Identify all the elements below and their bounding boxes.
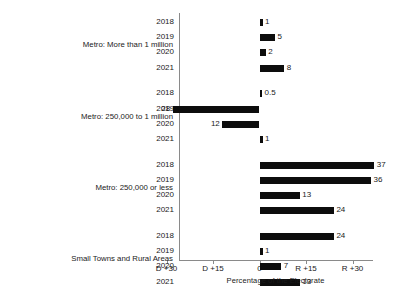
chart-row: 20181 — [0, 16, 401, 28]
chart-bar — [260, 19, 263, 26]
group-label: Metro: 250,000 to 1 million — [0, 112, 173, 121]
chart-bar — [260, 34, 276, 41]
chart-bar — [173, 106, 260, 113]
bar-value-label: 37 — [377, 159, 386, 171]
bar-value-label: 1 — [265, 16, 269, 28]
chart-bar — [260, 207, 334, 214]
chart-row: 20180.5 — [0, 87, 401, 99]
chart-row: 201837 — [0, 159, 401, 171]
chart-bar — [260, 136, 263, 143]
bar-value-label: 12 — [211, 118, 220, 130]
group-label: Small Towns and Rural Areas — [0, 254, 173, 263]
bar-value-label: 1 — [265, 133, 269, 145]
chart-row: 20218 — [0, 62, 401, 74]
x-axis-title: Percentage of the Electorate — [0, 276, 401, 285]
chart-row: 20211 — [0, 133, 401, 145]
year-label: 2018 — [140, 16, 174, 28]
year-label: 2021 — [140, 204, 174, 216]
year-label: 2018 — [140, 87, 174, 99]
chart-bar — [222, 121, 259, 128]
chart-bar — [260, 162, 375, 169]
chart-bar — [260, 192, 300, 199]
bar-value-label: 1 — [265, 245, 269, 257]
bar-value-label: 24 — [336, 204, 345, 216]
bar-value-label: 7 — [284, 260, 288, 272]
bar-value-label: 36 — [374, 174, 383, 186]
chart-bar — [260, 49, 266, 56]
chart-bar — [260, 65, 285, 72]
x-axis-title-text: Percentage of the Electorate — [227, 276, 325, 285]
chart-bar — [260, 233, 334, 240]
year-label: 2018 — [140, 159, 174, 171]
bar-value-label: 2 — [268, 46, 272, 58]
group-label: Metro: More than 1 million — [0, 40, 173, 49]
chart-bar — [260, 263, 282, 270]
year-label: 2021 — [140, 62, 174, 74]
chart-bar — [260, 177, 372, 184]
bar-value-label: 8 — [287, 62, 291, 74]
bar-value-label: 0.5 — [265, 87, 276, 99]
bar-chart: D +30D +150R +15R +30 201812019520202202… — [0, 0, 401, 305]
bar-value-label: 24 — [336, 230, 345, 242]
group-label: Metro: 250,000 or less — [0, 183, 173, 192]
chart-row: 202124 — [0, 204, 401, 216]
chart-bar — [260, 248, 263, 255]
bar-value-label: 5 — [278, 31, 282, 43]
bar-value-label: 13 — [302, 189, 311, 201]
chart-row: 201824 — [0, 230, 401, 242]
chart-bar — [260, 90, 263, 97]
year-label: 2021 — [140, 133, 174, 145]
year-label: 2018 — [140, 230, 174, 242]
